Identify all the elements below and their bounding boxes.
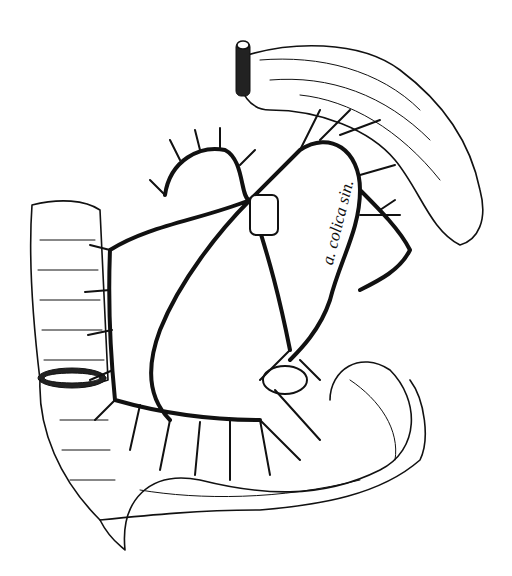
anatomical-diagram: a. colica sin. [0,0,512,576]
colon-vessel-drawing [0,0,512,576]
ascending-colon [31,201,108,384]
sigmoid-colon [40,362,412,550]
